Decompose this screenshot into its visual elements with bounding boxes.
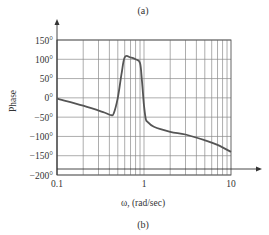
caption-bottom: (b) xyxy=(137,219,149,231)
y-tick-label: −150° xyxy=(30,151,54,161)
x-tick-label: 0.1 xyxy=(51,179,63,189)
phase-chart: 150°100°50°0°−50°−100°−150°−200° 0.1110 … xyxy=(0,0,269,235)
y-tick-label: −50° xyxy=(34,113,53,123)
y-tick-label: 150° xyxy=(35,36,53,46)
y-tick-label: 0° xyxy=(44,93,53,103)
y-tick-label: 100° xyxy=(35,55,53,65)
caption-top: (a) xyxy=(137,5,148,17)
y-tick-label: 50° xyxy=(40,74,54,84)
x-axis-label: ω, (rad/sec) xyxy=(121,198,165,209)
y-axis-label: Phase xyxy=(8,90,18,112)
x-tick-labels: 0.1110 xyxy=(51,179,236,189)
y-tick-label: −100° xyxy=(30,132,54,142)
x-axis-arrow-icon xyxy=(256,167,262,172)
x-tick-label: 10 xyxy=(226,179,236,189)
x-tick-label: 1 xyxy=(142,179,147,189)
y-axis-arrow-icon xyxy=(55,19,60,25)
y-tick-label: −200° xyxy=(30,171,54,181)
y-tick-labels: 150°100°50°0°−50°−100°−150°−200° xyxy=(30,36,54,181)
